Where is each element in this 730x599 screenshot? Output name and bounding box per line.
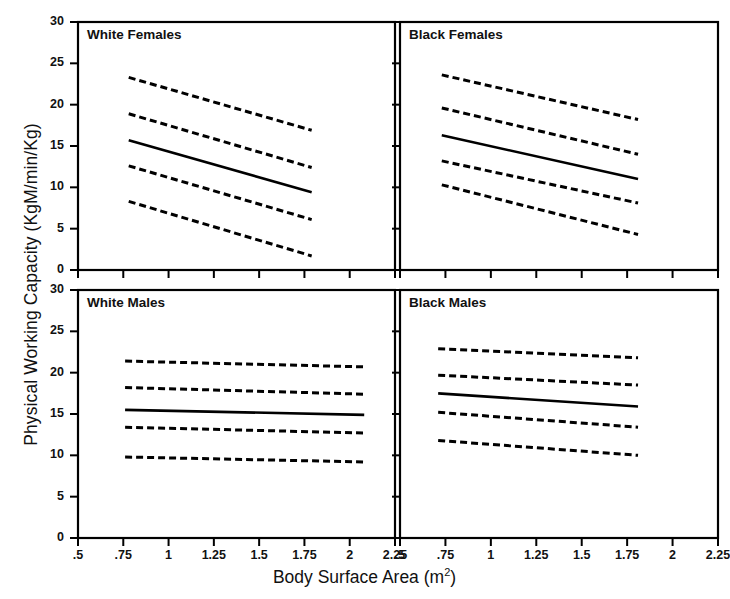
line-black-males-0: [438, 349, 638, 358]
line-black-females-2: [442, 135, 638, 179]
x-tick-label-c0-1.25: 1.25: [202, 548, 226, 562]
x-tick-label-c0-1: 1: [165, 548, 172, 562]
y-tick-label-r0-10: 10: [38, 179, 64, 193]
x-tick-label-c1-1: 1: [487, 548, 494, 562]
x-tick-label-c0-1.5: 1.5: [250, 548, 267, 562]
y-tick-label-r0-20: 20: [38, 97, 64, 111]
line-black-females-0: [442, 75, 638, 120]
panel-title-white-females: White Females: [87, 27, 182, 42]
y-tick-label-r0-5: 5: [38, 221, 64, 235]
panel-title-white-males: White Males: [87, 295, 165, 310]
line-black-females-4: [442, 185, 638, 235]
line-white-females-2: [129, 140, 312, 192]
x-tick-label-c1-1.25: 1.25: [524, 548, 548, 562]
y-tick-label-r1-25: 25: [38, 323, 64, 337]
line-white-females-3: [129, 166, 312, 220]
line-white-females-4: [129, 201, 312, 256]
line-black-males-4: [438, 440, 638, 455]
line-black-males-1: [438, 375, 638, 385]
y-tick-label-r1-30: 30: [38, 282, 64, 296]
y-tick-label-r1-20: 20: [38, 365, 64, 379]
line-black-males-3: [438, 412, 638, 427]
y-tick-label-r0-0: 0: [38, 262, 64, 276]
x-tick-label-c1-1.75: 1.75: [615, 548, 639, 562]
line-white-males-0: [125, 361, 364, 367]
panel-frame-black-females: [400, 22, 718, 270]
x-tick-label-c0-0.5: .5: [73, 548, 83, 562]
x-tick-label-c1-2: 2: [669, 548, 676, 562]
x-tick-label-c1-2.25: 2.25: [706, 548, 730, 562]
x-tick-label-c1-0.75: .75: [437, 548, 454, 562]
line-white-males-3: [125, 427, 364, 433]
panel-frame-black-males: [400, 290, 718, 538]
x-tick-label-c0-2: 2: [346, 548, 353, 562]
line-black-females-3: [442, 161, 638, 203]
line-white-females-1: [129, 114, 312, 168]
panel-title-black-males: Black Males: [409, 295, 486, 310]
y-tick-label-r0-25: 25: [38, 55, 64, 69]
y-tick-label-r1-0: 0: [38, 530, 64, 544]
line-white-males-1: [125, 388, 364, 395]
line-black-males-2: [438, 393, 638, 406]
x-tick-label-c1-1.5: 1.5: [573, 548, 590, 562]
y-tick-label-r1-5: 5: [38, 489, 64, 503]
panel-title-black-females: Black Females: [409, 27, 503, 42]
y-tick-label-r1-10: 10: [38, 447, 64, 461]
line-black-females-1: [442, 108, 638, 154]
y-tick-label-r0-30: 30: [38, 14, 64, 28]
line-white-males-2: [125, 410, 364, 415]
x-tick-label-c0-1.75: 1.75: [292, 548, 316, 562]
y-tick-label-r0-15: 15: [38, 138, 64, 152]
x-tick-label-c0-0.75: .75: [115, 548, 132, 562]
x-tick-label-c1-0.5: .5: [395, 548, 405, 562]
y-tick-label-r1-15: 15: [38, 406, 64, 420]
line-white-males-4: [125, 457, 364, 462]
